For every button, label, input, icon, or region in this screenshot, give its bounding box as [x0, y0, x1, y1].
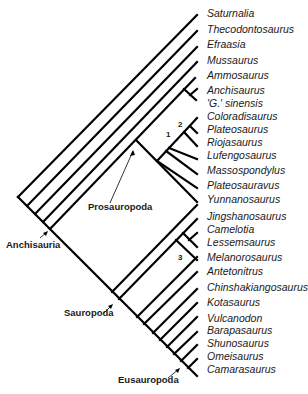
taxon-label: Camelotia [207, 223, 254, 235]
branch-camarasaurus-sister [188, 359, 197, 368]
taxon-label: Saturnalia [207, 7, 254, 19]
taxon-label: Efraasia [207, 38, 246, 50]
taxon-label: Mussaurus [207, 54, 258, 66]
branch-root-bottom [18, 197, 197, 376]
taxon-label: Jingshanosaurus [207, 210, 286, 222]
taxon-label: Omeisaurus [207, 350, 264, 362]
clade-label-eusauropoda: Eusauropoda [118, 374, 179, 385]
branch-gsinensis [190, 89, 197, 95]
clade-label-anchisauria: Anchisauria [6, 239, 60, 250]
taxon-label: Barapasaurus [207, 324, 272, 336]
taxon-label: Coloradisaurus [207, 110, 278, 122]
taxon-label: Massospondylus [207, 164, 285, 176]
branch-barapasaurus [167, 317, 197, 347]
node-label-3: 3 [178, 253, 182, 262]
taxon-label: Ammosaurus [207, 69, 269, 81]
taxon-label: Plateosaurus [207, 123, 268, 135]
taxon-label: Riojasaurus [207, 136, 262, 148]
branch-riojasaurus [184, 132, 197, 146]
taxon-label: Antetonitrus [207, 265, 263, 277]
taxon-label: Kotasaurus [207, 296, 260, 308]
prosauropoda-arrow [110, 151, 133, 203]
taxon-label: Thecodontosaurus [207, 23, 294, 35]
clade-label-sauropoda: Sauropoda [64, 307, 114, 318]
taxon-label: Lufengosaurus [207, 149, 276, 161]
taxon-label: Chinshakiangosaurus [207, 281, 308, 293]
branch-plateosaurus [190, 126, 197, 133]
taxon-label: Plateosauravus [207, 179, 279, 191]
branch-camelotia [189, 233, 197, 240]
taxon-label: Melanorosaurus [207, 251, 282, 263]
node-label-2: 2 [178, 120, 182, 129]
node-label-1: 1 [166, 130, 170, 139]
taxon-label: Lessemsaurus [207, 236, 275, 248]
branch-plateosauravus [157, 161, 197, 188]
branch-thecodontosaurus [27, 31, 197, 206]
taxon-label: Shunosaurus [207, 337, 269, 349]
taxon-label: Camarasaurus [207, 363, 276, 375]
taxon-label: Yunnanosaurus [207, 193, 280, 205]
taxon-label: Vulcanodon [207, 312, 262, 324]
branch-omeisaurus [181, 345, 197, 361]
clade-label-prosauropoda: Prosauropoda [88, 201, 152, 212]
taxon-label: 'G.' sinensis [207, 97, 263, 109]
branch-camelotia-stem [119, 219, 197, 299]
branch-antetonitrus [137, 257, 197, 317]
taxon-label: Anchisaurus [207, 84, 265, 96]
